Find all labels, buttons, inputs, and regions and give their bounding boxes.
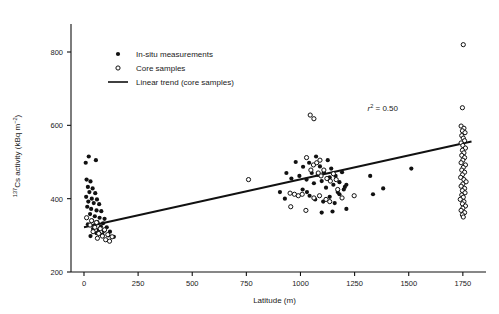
data-point-filled — [289, 176, 293, 180]
data-point-filled — [284, 171, 288, 175]
data-point-open — [94, 220, 98, 224]
data-point-filled — [278, 190, 282, 194]
data-point-open — [312, 117, 316, 121]
y-tick-label: 800 — [50, 48, 63, 57]
legend-label: In-situ measurements — [136, 50, 213, 59]
data-point-open — [334, 178, 338, 182]
data-point-filled — [330, 209, 334, 213]
svg-text:137Cs activity (kBq m−2): 137Cs activity (kBq m−2) — [12, 114, 22, 197]
data-point-open — [312, 196, 316, 200]
x-tick-label: 1250 — [346, 279, 363, 288]
data-point-filled — [92, 201, 96, 205]
data-point-filled — [94, 208, 98, 212]
data-point-filled — [283, 197, 287, 201]
data-point-filled — [307, 194, 311, 198]
data-point-filled — [97, 216, 101, 220]
data-point-open — [106, 233, 110, 237]
data-point-filled — [331, 183, 335, 187]
data-point-filled — [90, 197, 94, 201]
data-point-open — [98, 227, 102, 231]
legend-item: Linear trend (core samples) — [108, 78, 234, 87]
y-axis-title: 137Cs activity (kBq m−2) — [12, 114, 22, 197]
figure-container: 02505007501000125015001750200400600800La… — [0, 0, 499, 314]
data-point-filled — [84, 161, 88, 165]
data-point-open — [91, 230, 95, 234]
x-tick-label: 1750 — [455, 279, 472, 288]
data-point-open — [84, 216, 88, 220]
data-point-filled — [340, 170, 344, 174]
data-point-filled — [91, 186, 95, 190]
data-point-filled — [320, 179, 324, 183]
data-point-filled — [326, 158, 330, 162]
data-point-open — [461, 43, 465, 47]
data-point-filled — [333, 201, 337, 205]
data-point-open — [352, 194, 356, 198]
y-tick-label: 400 — [50, 195, 63, 204]
data-point-open — [319, 174, 323, 178]
data-point-filled — [85, 205, 89, 209]
data-point-filled — [314, 154, 318, 158]
data-point-filled — [320, 211, 324, 215]
legend-marker-filled-circle — [116, 52, 120, 56]
data-point-filled — [304, 178, 308, 182]
data-point-filled — [99, 209, 103, 213]
data-point-open — [304, 208, 308, 212]
data-point-filled — [102, 217, 106, 221]
data-point-filled — [88, 234, 92, 238]
data-point-filled — [86, 185, 90, 189]
legend-item: In-situ measurements — [116, 50, 213, 59]
data-point-filled — [94, 158, 98, 162]
x-tick-label: 500 — [186, 279, 199, 288]
x-tick-label: 0 — [82, 279, 86, 288]
trend-line — [84, 141, 472, 227]
data-point-open — [328, 200, 332, 204]
data-point-filled — [86, 200, 90, 204]
x-tick-label: 1500 — [400, 279, 417, 288]
data-point-filled — [381, 186, 385, 190]
x-tick-label: 750 — [240, 279, 253, 288]
data-point-filled — [312, 181, 316, 185]
trend-line-layer — [84, 141, 472, 227]
data-point-filled — [297, 174, 301, 178]
data-point-filled — [344, 183, 348, 187]
annotation-r-squared: r2 = 0.50 — [368, 103, 399, 113]
data-point-open — [328, 179, 332, 183]
data-point-filled — [97, 202, 101, 206]
data-point-filled — [409, 167, 413, 171]
legend-label: Linear trend (core samples) — [136, 78, 234, 87]
data-point-open — [93, 225, 97, 229]
x-axis-title: Latitude (m) — [253, 296, 296, 305]
data-point-open — [107, 239, 111, 243]
legend-marker-open-circle — [116, 66, 120, 70]
data-point-filled — [344, 207, 348, 211]
data-point-open — [317, 194, 321, 198]
annotations-layer: r2 = 0.50 — [368, 103, 399, 113]
data-point-open — [331, 172, 335, 176]
data-point-filled — [301, 165, 305, 169]
data-point-filled — [371, 192, 375, 196]
x-tick-label: 250 — [132, 279, 145, 288]
scatter-plot: 02505007501000125015001750200400600800La… — [0, 0, 499, 314]
data-point-filled — [368, 174, 372, 178]
data-point-filled — [88, 179, 92, 183]
data-point-filled — [307, 161, 311, 165]
data-point-open — [461, 215, 465, 219]
data-point-filled — [87, 190, 91, 194]
axes: 02505007501000125015001750200400600800La… — [12, 24, 486, 305]
legend-item: Core samples — [116, 64, 185, 73]
x-tick-label: 1000 — [292, 279, 309, 288]
data-point-open — [340, 196, 344, 200]
data-point-open — [459, 161, 463, 165]
data-point-open — [95, 236, 99, 240]
data-point-open — [318, 158, 322, 162]
data-point-open — [89, 219, 93, 223]
data-point-filled — [324, 186, 328, 190]
y-tick-label: 600 — [50, 121, 63, 130]
data-point-open — [289, 205, 293, 209]
data-point-filled — [294, 160, 298, 164]
data-point-open — [309, 168, 313, 172]
data-point-open — [322, 168, 326, 172]
data-point-filled — [93, 191, 97, 195]
data-point-filled — [88, 212, 92, 216]
data-point-filled — [95, 197, 99, 201]
